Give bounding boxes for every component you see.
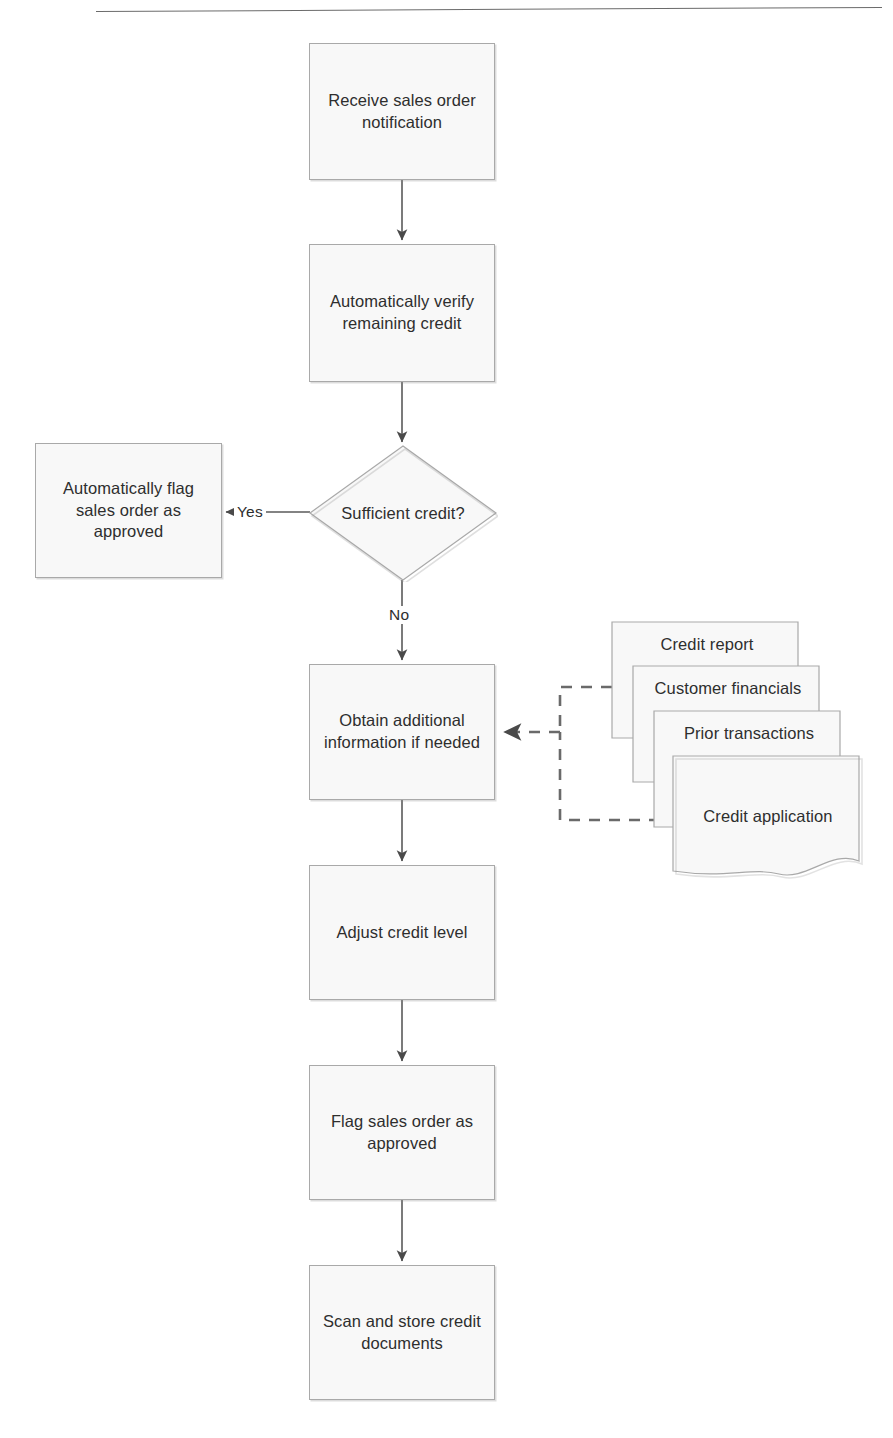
node-flag-sales-order-as-approved[interactable]: Flag sales order as approved — [309, 1065, 495, 1200]
node-label: Adjust credit level — [336, 922, 467, 944]
node-label: Flag sales order as approved — [320, 1111, 484, 1155]
node-receive-sales-order-notification[interactable]: Receive sales order notification — [309, 43, 495, 180]
diamond-shape — [308, 444, 498, 582]
node-sufficient-credit-decision[interactable]: Sufficient credit? — [308, 444, 498, 582]
node-automatically-flag-sales-order-as-approved[interactable]: Automatically flag sales order as approv… — [35, 443, 222, 578]
node-adjust-credit-level[interactable]: Adjust credit level — [309, 865, 495, 1000]
page-top-rule — [96, 7, 882, 12]
node-label: Scan and store credit documents — [320, 1311, 484, 1355]
document-credit-application[interactable]: Credit application — [672, 755, 864, 891]
edge-label-no: No — [386, 606, 412, 624]
node-scan-and-store-credit-documents[interactable]: Scan and store credit documents — [309, 1265, 495, 1400]
flowchart-page: Receive sales order notification Automat… — [0, 0, 893, 1438]
node-label: Automatically verify remaining credit — [320, 291, 484, 335]
node-label: Receive sales order notification — [320, 90, 484, 134]
document-shape — [672, 755, 864, 891]
edge-label-yes: Yes — [234, 503, 266, 521]
page-header-text-fragment — [240, 0, 760, 5]
node-label: Automatically flag sales order as approv… — [46, 478, 211, 543]
node-label: Obtain additional information if needed — [320, 710, 484, 754]
node-obtain-additional-information-if-needed[interactable]: Obtain additional information if needed — [309, 664, 495, 800]
node-automatically-verify-remaining-credit[interactable]: Automatically verify remaining credit — [309, 244, 495, 382]
